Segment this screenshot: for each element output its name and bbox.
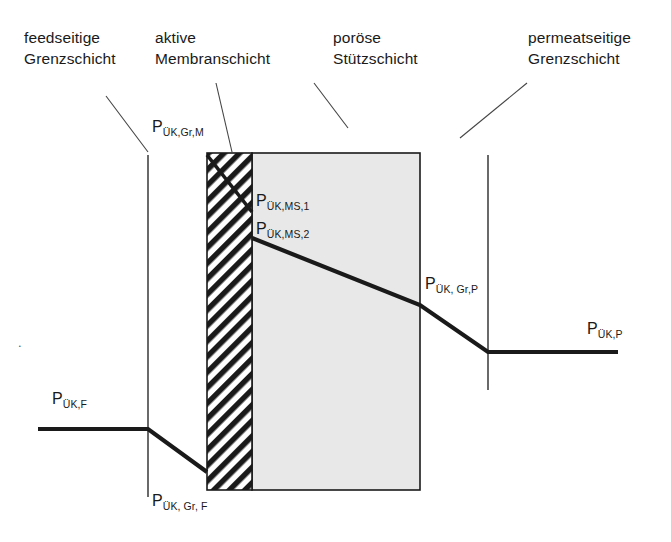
leader-line-porous-support [314,83,348,128]
label-p-uek-gr-m: PÜK,Gr,M [152,118,204,136]
label-active-membrane-layer: aktive Membranschicht [155,28,270,70]
label-p-uek-gr-m-symbol: P [152,118,163,135]
label-permeate-boundary-layer-line1: permeatseitige [528,28,631,49]
label-p-uek-gr-f: PÜK, Gr, F [152,492,207,510]
label-p-uek-f-symbol: P [52,390,63,407]
membrane-pressure-diagram: feedseitige Grenzschicht aktive Membrans… [0,0,671,542]
label-p-uek-p-subscript: ÜK,P [598,328,623,340]
label-p-uek-gr-p-symbol: P [425,275,436,292]
label-p-uek-ms-1-symbol: P [256,192,267,209]
label-p-uek-f-subscript: ÜK,F [63,398,87,410]
label-permeate-boundary-layer: permeatseitige Grenzschicht [528,28,631,70]
label-active-membrane-layer-line1: aktive [155,28,270,49]
leader-line-feed-boundary [106,96,148,152]
label-p-uek-ms-2: PÜK,MS,2 [256,220,310,238]
label-p-uek-gr-f-symbol: P [152,492,163,509]
label-feed-boundary-layer: feedseitige Grenzschicht [24,28,116,70]
label-p-uek-p-symbol: P [587,320,598,337]
label-p-uek-gr-m-subscript: ÜK,Gr,M [163,126,204,138]
label-p-uek-p: PÜK,P [587,320,623,338]
pressure-profile-feed-bulk [38,429,207,472]
label-porous-support-layer-line1: poröse [333,28,418,49]
label-porous-support-layer-line2: Stützschicht [333,49,418,70]
label-p-uek-ms-2-subscript: ÜK,MS,2 [267,228,310,240]
leader-line-active-membrane [216,83,232,152]
label-p-uek-gr-p: PÜK, Gr,P [425,275,478,293]
leader-line-permeate-boundary [460,83,527,138]
label-p-uek-gr-p-subscript: ÜK, Gr,P [436,283,478,295]
label-feed-boundary-layer-line1: feedseitige [24,28,116,49]
margin-mark: . [18,335,22,350]
label-p-uek-ms-1: PÜK,MS,1 [256,192,310,210]
label-p-uek-ms-2-symbol: P [256,220,267,237]
label-feed-boundary-layer-line2: Grenzschicht [24,49,116,70]
label-porous-support-layer: poröse Stützschicht [333,28,418,70]
diagram-canvas [0,0,671,542]
label-p-uek-ms-1-subscript: ÜK,MS,1 [267,200,310,212]
label-active-membrane-layer-line2: Membranschicht [155,49,270,70]
label-permeate-boundary-layer-line2: Grenzschicht [528,49,631,70]
label-p-uek-gr-f-subscript: ÜK, Gr, F [163,500,208,512]
label-p-uek-f: PÜK,F [52,390,87,408]
